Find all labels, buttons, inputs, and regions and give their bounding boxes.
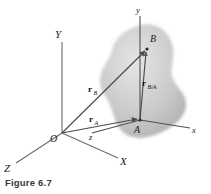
point-b-dot bbox=[145, 47, 148, 50]
point-b-label: B bbox=[150, 33, 156, 44]
axis-Y-label: Y bbox=[55, 28, 63, 40]
diagram-canvas: Y X Z O y x z A B r B r A r B/A bbox=[0, 0, 211, 194]
axis-X-label: X bbox=[119, 155, 128, 167]
vector-r-b-over-a-subscript: B/A bbox=[148, 84, 157, 90]
axis-Z-label: Z bbox=[4, 162, 11, 174]
point-a-label: A bbox=[133, 124, 141, 135]
axis-x-local-label: x bbox=[191, 125, 196, 135]
origin-O-label: O bbox=[50, 133, 57, 144]
axis-y-local-label: y bbox=[135, 5, 140, 15]
vector-r-b-over-a-symbol: r bbox=[142, 78, 146, 88]
figure-6-7: Y X Z O y x z A B r B r A r B/A Figure 6… bbox=[0, 0, 211, 194]
global-axes bbox=[16, 42, 118, 163]
vector-r-b-label: r B bbox=[88, 84, 98, 96]
vector-r-a-subscript: A bbox=[94, 120, 99, 126]
vector-r-a-symbol: r bbox=[89, 114, 93, 124]
axis-z-local-label: z bbox=[88, 132, 93, 142]
figure-caption: Figure 6.7 bbox=[5, 177, 52, 188]
vector-r-b-subscript: B bbox=[94, 90, 98, 96]
point-a-dot bbox=[139, 119, 142, 122]
vector-r-b-symbol: r bbox=[88, 84, 92, 94]
vector-r-a-label: r A bbox=[89, 114, 99, 126]
